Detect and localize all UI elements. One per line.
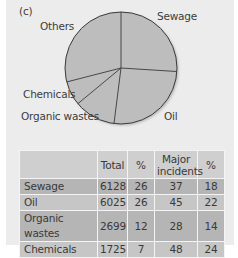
pie-label-sewage: Sewage [157,10,197,22]
row-percent: 26 [128,195,155,211]
table-row: Sewage 6128 26 37 18 [20,179,225,195]
pie-label-organic-wastes: Organic wastes [21,110,99,122]
header-major-incidents: Majorincidents [155,151,198,179]
row-major: 28 [155,211,198,242]
row-percent: 12 [128,211,155,242]
table-row: Oil 6025 26 45 22 [20,195,225,211]
table-row: Organic wastes 2699 12 28 14 [20,211,225,242]
row-name: Chemicals [20,242,98,258]
row-total: 6025 [98,195,128,211]
row-name: Sewage [20,179,98,195]
pie-label-oil: Oil [164,110,178,122]
row-major: 48 [155,242,198,258]
table-row: Chemicals 1725 7 48 24 [20,242,225,258]
header-name [20,151,98,179]
pollution-table: Total % Majorincidents % Sewage 6128 26 … [19,150,225,258]
row-percent: 7 [128,242,155,258]
pie-slices [65,12,177,124]
row-major-percent: 14 [198,211,225,242]
row-major-percent: 24 [198,242,225,258]
table-header-row: Total % Majorincidents % [20,151,225,179]
row-total: 6128 [98,179,128,195]
pie-label-others: Others [40,20,74,32]
header-total: Total [98,151,128,179]
row-major-percent: 18 [198,179,225,195]
row-name: Oil [20,195,98,211]
row-major: 45 [155,195,198,211]
row-major-percent: 22 [198,195,225,211]
row-total: 2699 [98,211,128,242]
header-percent: % [128,151,155,179]
row-major: 37 [155,179,198,195]
row-total: 1725 [98,242,128,258]
pie-label-chemicals: Chemicals [23,88,75,100]
row-percent: 26 [128,179,155,195]
row-name: Organic wastes [20,211,98,242]
